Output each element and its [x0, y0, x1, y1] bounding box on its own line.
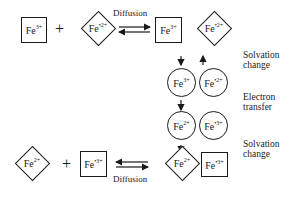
- species-label: Fe•2+: [205, 22, 223, 34]
- species-fe2-circle: Fe2+: [167, 111, 196, 140]
- plus-sign-bottom: +: [62, 156, 71, 172]
- species-label: Fe•3+: [205, 159, 223, 171]
- species-label: Fe2+: [174, 157, 190, 169]
- species-fe-star-3-square-bottom-right: Fe•3+: [201, 152, 228, 177]
- species-fe-star-2-diamond-top-left: Fe•2+: [80, 10, 116, 46]
- species-fe3-square-top-right: Fe3+: [155, 17, 182, 43]
- species-fe-star-2-circle: Fe•2+: [199, 68, 228, 97]
- diffusion-label-top: Diffusion: [113, 8, 147, 18]
- species-label: Fe•3+: [84, 158, 102, 170]
- species-label: Fe3+: [26, 24, 42, 36]
- species-fe-star-3-square-bottom-left: Fe•3+: [80, 151, 107, 177]
- diffusion-label-bottom: Diffusion: [113, 174, 147, 184]
- species-fe3-circle: Fe3+: [167, 68, 196, 97]
- species-fe-star-3-circle: Fe•3+: [199, 111, 228, 140]
- species-label: Fe•2+: [89, 22, 107, 34]
- species-label: Fe•3+: [204, 120, 222, 132]
- species-fe-star-2-diamond-top-right: Fe•2+: [196, 10, 232, 46]
- label-solvation-change-bottom: Solvation change: [243, 139, 279, 159]
- species-label: Fe3+: [173, 77, 189, 89]
- species-fe2-diamond-bottom-left: Fe2+: [14, 145, 50, 181]
- label-solvation-change-top: Solvation change: [243, 50, 279, 70]
- species-label: Fe2+: [173, 120, 189, 132]
- species-label: Fe2+: [24, 157, 40, 169]
- species-fe2-diamond-bottom-right: Fe2+: [164, 145, 200, 181]
- plus-sign-top: +: [55, 21, 64, 37]
- species-label: Fe3+: [160, 24, 176, 36]
- species-label: Fe•2+: [204, 77, 222, 89]
- species-fe3-square-top-left: Fe3+: [21, 17, 47, 43]
- label-electron-transfer: Electron transfer: [243, 92, 275, 112]
